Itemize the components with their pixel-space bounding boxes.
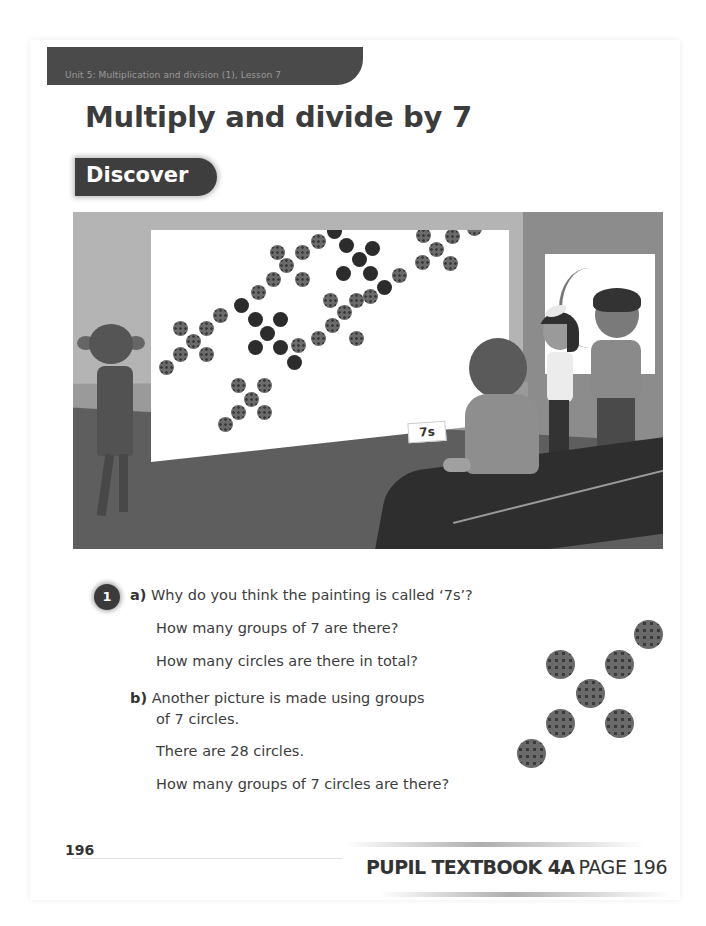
- example-circle: [517, 739, 546, 768]
- question-a-line-2: How many groups of 7 are there?: [156, 620, 398, 636]
- question-b-letter: b): [130, 690, 147, 706]
- question-a-text: Why do you think the painting is called …: [151, 587, 473, 603]
- footer-divider: [72, 858, 342, 859]
- footer-shade-top: [345, 842, 645, 847]
- question-a-line-1: a) Why do you think the painting is call…: [130, 587, 473, 603]
- textbook-page-reference: PUPIL TEXTBOOK 4APAGE 196: [366, 856, 667, 878]
- example-circle: [576, 679, 605, 708]
- footer-shade-bottom: [380, 892, 670, 897]
- section-tag-discover: Discover: [75, 158, 217, 196]
- question-b-line-4: How many groups of 7 circles are there?: [156, 776, 449, 792]
- section-tag-label: Discover: [86, 163, 188, 187]
- question-number-badge: 1: [94, 584, 120, 610]
- example-circle: [605, 709, 634, 738]
- page-number: 196: [65, 842, 94, 858]
- example-circle: [605, 650, 634, 679]
- seated-child-figure: [455, 338, 545, 488]
- question-b-line-2: of 7 circles.: [156, 711, 239, 727]
- book-label: PUPIL TEXTBOOK 4A: [366, 856, 574, 878]
- question-b-line-3: There are 28 circles.: [156, 743, 304, 759]
- example-circle: [546, 650, 575, 679]
- girl-middle-figure: [539, 312, 583, 462]
- question-a-letter: a): [130, 587, 146, 603]
- question-b-line-1: b) Another picture is made using groups: [130, 690, 425, 706]
- example-circle: [546, 709, 575, 738]
- discover-illustration: 7s: [73, 212, 663, 549]
- question-b-text: Another picture is made using groups: [152, 690, 425, 706]
- question-a-line-3: How many circles are there in total?: [156, 653, 418, 669]
- book-page-label: PAGE 196: [578, 856, 667, 878]
- unit-banner: Unit 5: Multiplication and division (1),…: [47, 47, 363, 85]
- unit-banner-text: Unit 5: Multiplication and division (1),…: [65, 70, 281, 80]
- girl-left-figure: [77, 324, 147, 524]
- boy-figure: [585, 292, 649, 462]
- example-circle: [634, 620, 663, 649]
- page-title: Multiply and divide by 7: [85, 100, 472, 134]
- painting-label: 7s: [407, 421, 446, 444]
